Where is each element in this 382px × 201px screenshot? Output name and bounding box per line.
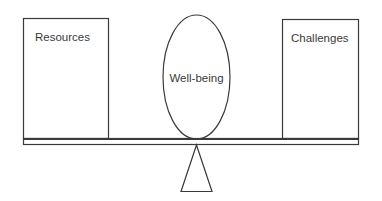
challenges-box: Challenges [283, 20, 359, 139]
balance-diagram: Resources Challenges Well-being [0, 0, 382, 201]
challenges-label: Challenges [291, 32, 349, 44]
resources-box: Resources [24, 19, 109, 139]
fulcrum-triangle [181, 145, 212, 192]
well-being-ellipse: Well-being [163, 15, 230, 139]
balance-beam [24, 139, 359, 145]
well-being-label: Well-being [169, 72, 223, 84]
resources-label: Resources [35, 31, 90, 43]
